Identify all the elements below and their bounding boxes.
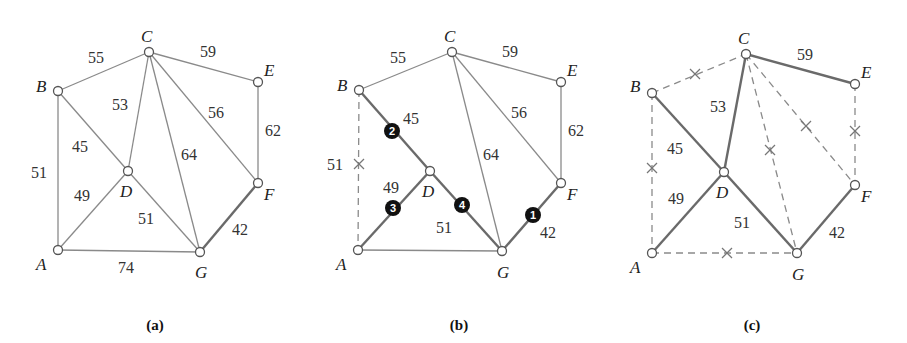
- vertex-label-a: A: [629, 258, 641, 277]
- vertex-label-d: D: [715, 183, 729, 202]
- vertex-c: [742, 50, 751, 59]
- edge-c-f: [746, 54, 855, 185]
- edge-f-g: [797, 185, 855, 253]
- vertex-f: [557, 179, 566, 188]
- edge-weight-label: 74: [118, 259, 134, 276]
- edge-weight-label: 45: [72, 138, 88, 155]
- edge-b-c: [652, 54, 746, 93]
- edge-f-g: [200, 183, 258, 252]
- panel-c-graph: 595345495142ABCDEFG(c): [629, 29, 872, 334]
- edge-weight-label: 42: [232, 221, 248, 238]
- edge-b-a: [358, 90, 359, 250]
- edge-weight-label: 53: [710, 98, 726, 115]
- vertex-label-g: G: [497, 263, 509, 282]
- vertex-a: [648, 249, 657, 258]
- rejected-edge-x-icon: [801, 121, 811, 131]
- order-badge-4: 4: [454, 197, 470, 213]
- edge-weight-label: 49: [74, 187, 90, 204]
- edge-weight-label: 62: [568, 122, 584, 139]
- vertex-g: [498, 247, 507, 256]
- vertex-label-d: D: [421, 182, 435, 201]
- minimum-spanning-tree-figure: 555953566245645149514274ABCDEFG(a) 55595…: [0, 0, 907, 343]
- panel-caption: (a): [146, 317, 164, 334]
- edge-weight-label: 45: [667, 140, 683, 157]
- edge-weight-label: 42: [540, 224, 556, 241]
- vertex-b: [54, 87, 63, 96]
- svg-text:2: 2: [389, 125, 395, 137]
- edge-weight-label: 51: [734, 214, 750, 231]
- edge-c-d: [724, 54, 746, 172]
- edge-weight-label: 59: [502, 43, 518, 60]
- order-badge-1: 1: [525, 207, 541, 223]
- vertex-e: [851, 80, 860, 89]
- edge-weight-label: 56: [511, 104, 527, 121]
- vertex-b: [355, 86, 364, 95]
- edge-weight-label: 62: [265, 122, 281, 139]
- edge-a-g: [358, 250, 502, 251]
- panel-caption: (c): [744, 317, 761, 334]
- edge-weight-label: 51: [31, 164, 47, 181]
- edge-weight-label: 45: [403, 110, 419, 127]
- edges: [58, 52, 258, 252]
- rejected-edge-x-icon: [765, 145, 775, 155]
- vertex-label-c: C: [738, 29, 750, 48]
- vertex-d: [720, 168, 729, 177]
- vertex-label-a: A: [335, 255, 347, 274]
- edge-weight-label: 55: [88, 49, 104, 66]
- edge-weight-label: 51: [138, 210, 154, 227]
- vertex-label-g: G: [195, 263, 207, 282]
- vertex-label-e: E: [263, 61, 275, 80]
- edge-weight-label: 59: [200, 43, 216, 60]
- panel-b-graph: 555956624564514951421234ABCDEFG(b): [327, 27, 584, 334]
- vertex-label-c: C: [444, 27, 456, 46]
- edge-weight-label: 51: [327, 156, 343, 173]
- vertex-b: [648, 89, 657, 98]
- edge-weight-label: 59: [797, 46, 813, 63]
- edge-a-g: [58, 250, 200, 252]
- vertex-c: [448, 48, 457, 57]
- edge-weights: 55595662456451495142: [327, 43, 584, 241]
- vertices: ABCDEFG: [335, 27, 578, 282]
- svg-text:1: 1: [530, 209, 536, 221]
- edge-weight-label: 42: [829, 224, 845, 241]
- panel-a-graph: 555953566245645149514274ABCDEFG(a): [31, 27, 281, 334]
- edge-weight-label: 51: [436, 219, 452, 236]
- vertex-label-b: B: [337, 76, 348, 95]
- vertex-g: [196, 248, 205, 257]
- vertex-label-d: D: [119, 182, 133, 201]
- edge-a-d: [58, 171, 128, 250]
- vertex-a: [354, 246, 363, 255]
- edge-weight-label: 64: [181, 146, 197, 163]
- vertex-label-e: E: [860, 63, 872, 82]
- vertex-label-b: B: [36, 77, 47, 96]
- edge-weight-label: 64: [483, 146, 499, 163]
- vertex-label-a: A: [35, 255, 47, 274]
- vertex-label-f: F: [860, 187, 872, 206]
- vertex-label-f: F: [566, 185, 578, 204]
- vertex-a: [54, 246, 63, 255]
- vertex-d: [426, 167, 435, 176]
- vertex-label-e: E: [566, 61, 578, 80]
- edge-weight-label: 55: [390, 49, 406, 66]
- vertices: ABCDEFG: [35, 27, 275, 282]
- panel-caption: (b): [450, 317, 468, 334]
- svg-text:3: 3: [390, 202, 396, 214]
- vertex-label-b: B: [630, 77, 641, 96]
- edge-weight-label: 53: [112, 96, 128, 113]
- edge-weight-label: 49: [383, 179, 399, 196]
- vertex-label-f: F: [263, 185, 275, 204]
- svg-text:4: 4: [459, 199, 466, 211]
- order-badge-2: 2: [384, 123, 400, 139]
- vertex-d: [124, 167, 133, 176]
- edge-c-d: [128, 52, 149, 171]
- order-badge-3: 3: [385, 200, 401, 216]
- vertex-c: [145, 48, 154, 57]
- vertex-label-g: G: [792, 265, 804, 284]
- vertex-g: [793, 249, 802, 258]
- vertices: ABCDEFG: [629, 29, 872, 284]
- edge-weight-label: 56: [208, 104, 224, 121]
- vertex-e: [254, 78, 263, 87]
- vertex-e: [557, 78, 566, 87]
- edge-weight-label: 49: [668, 190, 684, 207]
- edge-d-g: [724, 172, 797, 253]
